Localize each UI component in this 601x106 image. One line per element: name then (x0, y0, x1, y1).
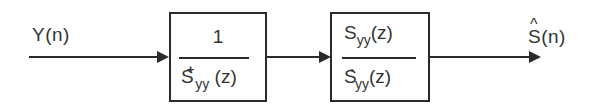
block2-den-arg: (z) (369, 66, 391, 87)
block2-denominator: S-yy(z) (332, 66, 428, 88)
block2-num-arg: (z) (371, 22, 393, 43)
block-causal-part-filter: Syy(z) S-yy(z) (330, 12, 430, 102)
output-arg: (n) (541, 26, 566, 47)
block1-den-arg: (z) (215, 66, 237, 87)
input-arrowhead-icon (157, 51, 169, 63)
output-hat-accent: ^ (530, 16, 538, 34)
block2-fraction-bar (342, 57, 416, 59)
block2-den-sub: yy (355, 76, 369, 92)
block1-denominator: S+yy (z) (171, 66, 265, 88)
block2-num-sub: yy (357, 32, 371, 48)
block2-numerator: Syy(z) (332, 22, 428, 44)
block-prewhitening-filter: 1 S+yy (z) (169, 12, 267, 102)
block2-den-sup: - (350, 62, 354, 77)
signal-flow-wires (0, 0, 601, 106)
input-label: Y(n) (32, 24, 70, 46)
block1-den-sub: yy (195, 76, 209, 92)
block1-den-sup: + (187, 62, 195, 77)
block1-fraction-bar (179, 57, 249, 59)
block1-numerator: 1 (171, 26, 265, 48)
output-label: ^S (n) (528, 26, 566, 48)
block2-num-base: S (344, 22, 357, 43)
output-arrowhead-icon (529, 51, 541, 63)
